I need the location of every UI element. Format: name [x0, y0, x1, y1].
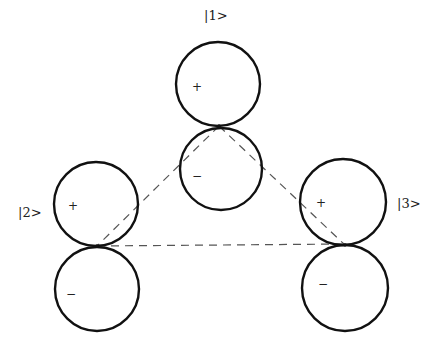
- orbital-state-1: + − |1>: [176, 8, 262, 210]
- sign-minus-1: −: [192, 169, 202, 183]
- sign-minus-2: −: [66, 287, 76, 301]
- node-point-3: [343, 243, 347, 247]
- bond-1-2: [97, 126, 219, 246]
- ket-label-1: |1>: [204, 8, 228, 23]
- sign-plus-3: +: [316, 196, 326, 210]
- lobe-1-positive: [176, 42, 260, 126]
- lobe-3-positive: [300, 159, 386, 245]
- sign-plus-1: +: [192, 80, 202, 94]
- sign-minus-3: −: [318, 277, 328, 291]
- orbital-state-3: + − |3>: [300, 159, 421, 331]
- bond-1-3: [219, 126, 345, 245]
- sign-plus-2: +: [68, 199, 78, 213]
- orbital-state-2: + − |2>: [18, 162, 139, 331]
- ket-label-2: |2>: [18, 205, 42, 220]
- lobe-3-negative: [302, 245, 388, 331]
- node-point-1: [217, 124, 221, 128]
- bond-2-3: [97, 244, 345, 246]
- node-point-2: [95, 244, 99, 248]
- lobe-2-positive: [54, 162, 138, 246]
- ket-label-3: |3>: [397, 196, 421, 211]
- orbital-triangle-diagram: + − |1> + − |2> + − |3>: [0, 0, 438, 350]
